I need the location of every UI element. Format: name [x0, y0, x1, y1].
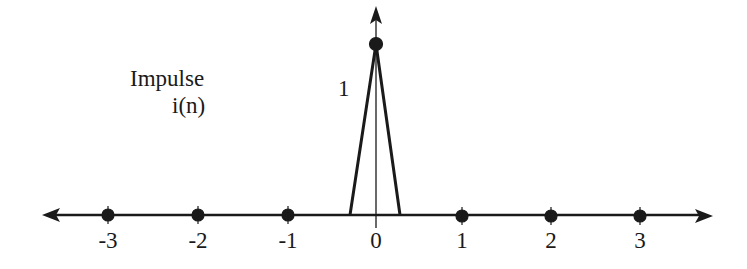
- x-tick-label: 2: [545, 228, 557, 254]
- x-tick-label: -2: [188, 228, 207, 254]
- plot-title-line1: Impulse: [130, 66, 204, 92]
- x-tick-label: 1: [456, 228, 468, 254]
- impulse-spike: [350, 44, 400, 215]
- x-tick-label: 3: [634, 228, 646, 254]
- plot-title-line2: i(n): [172, 93, 205, 119]
- x-tick-label: 0: [370, 228, 382, 254]
- sample-point-peak: [370, 38, 383, 51]
- y-marker-label: 1: [338, 76, 350, 102]
- x-tick-label: -1: [278, 228, 297, 254]
- x-tick-label: -3: [98, 228, 117, 254]
